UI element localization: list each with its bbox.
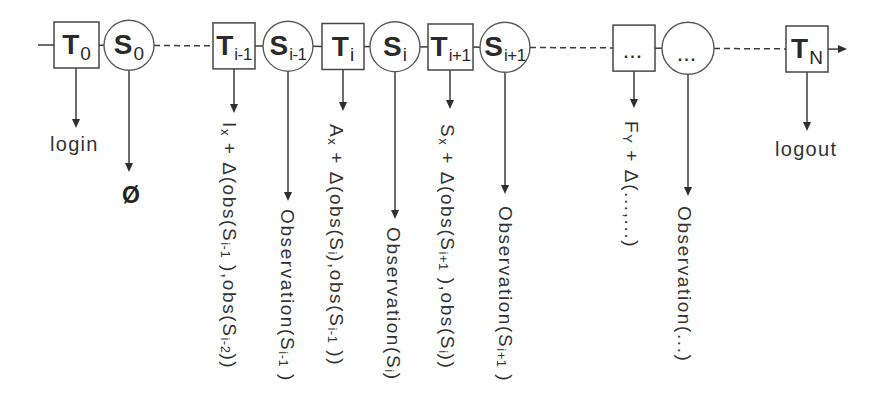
label-text: ),obs(S: [437, 271, 458, 350]
arrowhead-icon: [630, 99, 638, 108]
label-text: Observation(S: [277, 209, 298, 351]
node-main: T: [791, 35, 808, 63]
output-label-login: login: [50, 132, 99, 156]
node-sub: i+1: [449, 47, 471, 64]
label-text: + Δ(obs(S: [326, 145, 347, 251]
label-text: A: [326, 124, 347, 138]
node-label-si: Si: [370, 22, 420, 72]
node-main: T: [62, 31, 79, 59]
output-label-logout: logout: [775, 137, 837, 161]
label-text: )): [219, 353, 240, 369]
node-label-si+1: Si+1: [480, 22, 530, 72]
arrowhead-icon: [684, 187, 692, 196]
label-subscript: i-1: [218, 242, 233, 258]
label-text: ),obs(S: [219, 258, 240, 337]
label-subscript: Y: [620, 134, 635, 143]
node-main: S: [484, 33, 503, 61]
label-subscript: x: [218, 129, 233, 136]
empty-set-symbol: Ø: [118, 181, 144, 209]
node-main: T: [332, 33, 349, 61]
node-main: T: [431, 33, 448, 61]
node-sub: N: [809, 48, 823, 67]
node-sub: i-1: [289, 46, 306, 63]
arrowhead-icon: [125, 163, 133, 172]
label-text: ),obs(S: [326, 255, 347, 327]
arrowhead-icon: [339, 102, 347, 111]
node-label-s0: S0: [104, 20, 154, 70]
label-text: I: [219, 122, 240, 129]
label-text: S: [437, 124, 458, 138]
node-main: S: [383, 33, 402, 61]
label-subscript: i-1: [276, 351, 291, 367]
label-text: ): [495, 367, 516, 382]
output-label-ti: Ax + Δ(obs(Si),obs(Si-1 )): [325, 124, 347, 366]
label-subscript: i+1: [436, 252, 451, 271]
node-label-ti: Ti: [322, 24, 364, 70]
observation-label-si-1: Observation(Si-1 ): [276, 209, 298, 382]
node-sub: i+1: [504, 47, 526, 64]
node-main: S: [269, 32, 288, 60]
label-text: F: [621, 121, 642, 134]
node-sub: 0: [80, 44, 91, 63]
node-sub: i: [403, 45, 407, 64]
node-main: T: [216, 32, 233, 60]
arrowhead-icon: [803, 122, 811, 131]
node-sub: i-1: [234, 46, 251, 63]
label-subscript: i+1: [494, 348, 509, 367]
label-text: + Δ(...,...): [621, 143, 642, 248]
node-label-ellipsis-circle: ...: [662, 22, 714, 74]
observation-label-si+1: Observation(Si+1 ): [494, 206, 516, 382]
output-label-ti-1: Ix + Δ(obs(Si-1 ),obs(Si-2)): [218, 122, 240, 369]
node-label-tn: TN: [786, 26, 828, 72]
label-text: Observation(S: [495, 206, 516, 348]
node-label-ellipsis-box: ...: [613, 25, 655, 71]
arrowhead-icon: [391, 210, 399, 219]
arrowhead-icon: [230, 104, 238, 113]
label-text: ): [383, 373, 404, 381]
arrowhead-icon: [446, 100, 454, 109]
output-label-ti+1: Sx + Δ(obs(Si+1 ),obs(Si)): [436, 124, 458, 369]
label-text: Observation(...): [674, 206, 695, 363]
observation-label-si: Observation(Si): [382, 227, 404, 381]
arrowhead-right-icon: [838, 45, 847, 53]
arrowhead-icon: [284, 192, 292, 201]
node-sub: 0: [134, 44, 145, 63]
observation-label-ellipsis: Observation(...): [673, 206, 695, 363]
node-label-ti-1: Ti-1: [213, 23, 255, 69]
label-text: Observation(S: [383, 227, 404, 369]
node-main: S: [114, 31, 133, 59]
node-sub: i: [350, 45, 354, 64]
diagram-canvas: T0 S0 Ti-1 Si-1 Ti Si Ti+1 Si+1 ... ... …: [0, 0, 876, 419]
node-main: ...: [624, 45, 643, 61]
node-main: ...: [678, 48, 697, 64]
label-text: ): [277, 367, 298, 382]
label-text: )): [326, 343, 347, 366]
node-label-t0: T0: [54, 22, 99, 68]
arrowhead-icon: [501, 185, 509, 194]
arrowhead-icon: [72, 119, 80, 128]
label-subscript: i-2: [218, 337, 233, 353]
node-label-si-1: Si-1: [263, 21, 313, 71]
label-text: )): [437, 354, 458, 370]
label-subscript: i-1: [325, 327, 340, 343]
output-label-ellipsis-box: FY + Δ(...,...): [620, 121, 642, 248]
label-text: + Δ(obs(S: [437, 145, 458, 251]
label-text: + Δ(obs(S: [219, 136, 240, 242]
node-label-ti+1: Ti+1: [428, 24, 473, 70]
